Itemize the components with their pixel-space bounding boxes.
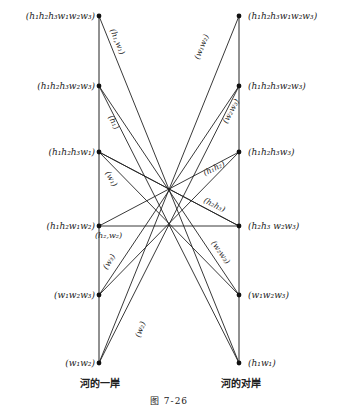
left-state-1: (h₁h₂h₃w₂w₃) [37,81,95,91]
edge-label-h1w1: (h₁,w₁) [108,27,127,56]
edge-label-w2: (w₂) [133,320,147,338]
right-state-4: (w₁w₂w₃) [248,290,289,300]
node-L0 [97,14,102,19]
left-state-5: (w₁w₂) [65,358,95,368]
node-R1 [237,84,242,89]
edge-label-w2w3-upper: (w₂w₃) [221,97,241,124]
node-L5 [97,361,102,366]
left-state-4: (w₁w₂w₃) [54,290,95,300]
left-bank-label: 河的一岸 [80,375,120,390]
node-R0 [237,14,242,19]
node-L2 [97,150,102,155]
node-R5 [237,361,242,366]
edge-label-h2h3: (h₂h₃) [202,196,227,214]
edge-label-w2w3-lower: (w₂w₃) [209,239,231,266]
right-state-2: (h₁h₂h₃w₃) [248,147,295,157]
edges [99,16,239,363]
edge-label-h1: (h₁) [106,114,121,131]
river-crossing-diagram: (h₁,w₁) (h₁) (w₁) (h₂,w₂) (w₁w₂) (w₂) (w… [0,0,342,408]
edge-label-h2w2: (h₂,w₂) [95,231,122,240]
left-state-2: (h₁h₂h₃w₁) [48,147,95,157]
edge-label-w3: (w₃) [101,252,117,271]
figure-caption: 图 7-26 [150,394,188,407]
node-L1 [97,84,102,89]
node-R2 [237,150,242,155]
edge-label-h1h2: (h₁h₂) [202,159,227,177]
right-state-1: (h₁h₂h₃w₂w₃) [248,81,306,91]
node-R4 [237,293,242,298]
right-bank-label: 河的对岸 [221,375,261,390]
edge-label-w1w2: (w₁w₂) [193,33,211,61]
left-state-3: (h₁h₂w₁w₂) [47,221,95,231]
edge-label-w1: (w₁) [103,170,119,189]
left-state-0: (h₁h₂h₃w₁w₂w₃) [26,11,95,21]
node-L4 [97,293,102,298]
right-state-3: (h₂h₃ w₂w₃) [248,221,299,231]
right-state-5: (h₁w₁) [248,358,276,368]
right-state-0: (h₁h₂h₃w₁w₂w₃) [248,11,317,21]
node-R3 [237,224,242,229]
node-L3 [97,224,102,229]
